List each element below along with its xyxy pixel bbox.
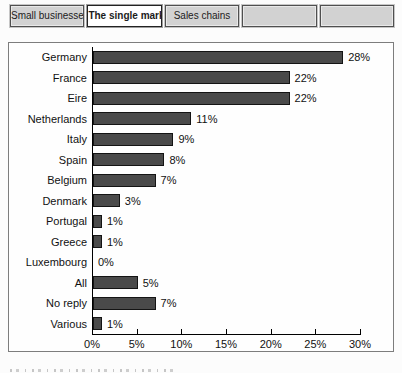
bar-track: 0% [92, 252, 361, 273]
value-label: 0% [98, 256, 114, 268]
value-label: 7% [161, 174, 177, 186]
category-label: Germany [9, 51, 92, 63]
bar-row: Luxembourg0% [9, 252, 393, 273]
x-tick [271, 329, 272, 335]
bar-track: 7% [92, 170, 361, 191]
category-label: Eire [9, 92, 92, 104]
category-label: All [9, 277, 92, 289]
value-label: 5% [143, 277, 159, 289]
category-label: Spain [9, 154, 92, 166]
value-label: 22% [295, 92, 317, 104]
value-label: 9% [178, 133, 194, 145]
bar-track: 3% [92, 191, 361, 212]
bar [93, 174, 156, 187]
x-tick [92, 329, 93, 335]
bar-row: Eire22% [9, 88, 393, 109]
bar-row: No reply7% [9, 293, 393, 314]
bar [93, 317, 102, 330]
x-tick-label: 30% [349, 338, 371, 350]
category-label: Denmark [9, 195, 92, 207]
category-label: France [9, 72, 92, 84]
x-tick-label: 0% [84, 338, 100, 350]
tab-bar: Small businesses The single market Sales… [10, 5, 394, 27]
bar [93, 276, 138, 289]
value-label: 3% [125, 195, 141, 207]
bar-row: Denmark3% [9, 191, 393, 212]
clipped-caption-fragment [10, 369, 178, 372]
value-label: 1% [107, 318, 123, 330]
bar-row: Italy9% [9, 129, 393, 150]
x-tick-label: 25% [304, 338, 326, 350]
bar-row: Netherlands11% [9, 109, 393, 130]
x-tick [360, 329, 361, 335]
tab-blank-1[interactable] [242, 5, 316, 27]
category-label: Belgium [9, 174, 92, 186]
bar [93, 153, 164, 166]
x-tick [181, 329, 182, 335]
bar [93, 112, 191, 125]
bar-track: 22% [92, 88, 361, 109]
x-tick-label: 5% [129, 338, 145, 350]
bar-track: 8% [92, 150, 361, 171]
x-tick [137, 329, 138, 335]
bar-track: 7% [92, 293, 361, 314]
bar-track: 11% [92, 109, 361, 130]
category-label: Italy [9, 133, 92, 145]
category-label: No reply [9, 297, 92, 309]
value-label: 1% [107, 236, 123, 248]
bar-track: 5% [92, 273, 361, 294]
bar-chart: Germany28%France22%Eire22%Netherlands11%… [9, 47, 393, 334]
tab-blank-2[interactable] [320, 5, 394, 27]
bar [93, 215, 102, 228]
x-tick [226, 329, 227, 335]
category-label: Luxembourg [9, 256, 92, 268]
bar [93, 133, 173, 146]
bar [93, 235, 102, 248]
bar [93, 297, 156, 310]
bar-track: 9% [92, 129, 361, 150]
bar [93, 92, 290, 105]
tab-the-single-market[interactable]: The single market [87, 5, 161, 27]
bar [93, 71, 290, 84]
category-label: Various [9, 318, 92, 330]
bar-row: Spain8% [9, 150, 393, 171]
category-label: Portugal [9, 215, 92, 227]
bar-row: Various1% [9, 314, 393, 335]
bar-track: 28% [92, 47, 361, 68]
bar [93, 51, 343, 64]
value-label: 7% [161, 297, 177, 309]
chart-panel: Germany28%France22%Eire22%Netherlands11%… [8, 42, 394, 352]
bar-row: Germany28% [9, 47, 393, 68]
x-tick-label: 10% [170, 338, 192, 350]
value-label: 22% [295, 72, 317, 84]
bar-track: 1% [92, 232, 361, 253]
bar-track: 1% [92, 211, 361, 232]
tab-sales-chains[interactable]: Sales chains [165, 5, 239, 27]
value-label: 28% [348, 51, 370, 63]
bar-row: France22% [9, 68, 393, 89]
bar-row: Greece1% [9, 232, 393, 253]
x-tick-label: 20% [260, 338, 282, 350]
value-label: 8% [169, 154, 185, 166]
category-label: Netherlands [9, 113, 92, 125]
bar-row: All5% [9, 273, 393, 294]
bar-row: Portugal1% [9, 211, 393, 232]
x-tick-label: 15% [215, 338, 237, 350]
x-axis: 0%5%10%15%20%25%30% [92, 334, 360, 353]
bar [93, 194, 120, 207]
x-tick [315, 329, 316, 335]
value-label: 11% [196, 113, 217, 125]
bar-track: 22% [92, 68, 361, 89]
tab-small-businesses[interactable]: Small businesses [10, 5, 84, 27]
value-label: 1% [107, 215, 123, 227]
bar-row: Belgium7% [9, 170, 393, 191]
category-label: Greece [9, 236, 92, 248]
